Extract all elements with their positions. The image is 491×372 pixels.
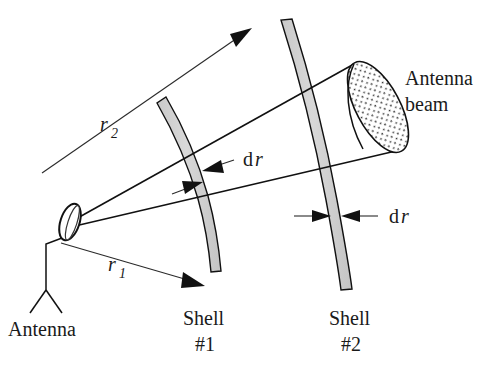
shell-1-line-2: #1	[195, 333, 215, 355]
r1-subscript: 1	[119, 266, 126, 281]
r1-symbol: r	[108, 253, 116, 275]
r2-subscript: 2	[111, 126, 118, 141]
dr1-d: d	[243, 148, 253, 170]
shell-2-line-2: #2	[341, 333, 361, 355]
dr1-r: r	[255, 148, 263, 170]
physics-diagram-figure: r 2 r 1 d r d r Antenna beam Antenna She…	[0, 0, 491, 372]
antenna-beam-line-1: Antenna	[405, 67, 473, 89]
antenna-beam-line-2: beam	[405, 93, 449, 115]
dr2-d: d	[389, 205, 399, 227]
shell-2-line-1: Shell	[329, 307, 371, 329]
antenna-shells-diagram: r 2 r 1 d r d r Antenna beam Antenna She…	[0, 0, 491, 372]
dr2-r: r	[401, 205, 409, 227]
shell-1-line-1: Shell	[183, 307, 225, 329]
antenna-label: Antenna	[8, 318, 76, 340]
r2-symbol: r	[100, 113, 108, 135]
